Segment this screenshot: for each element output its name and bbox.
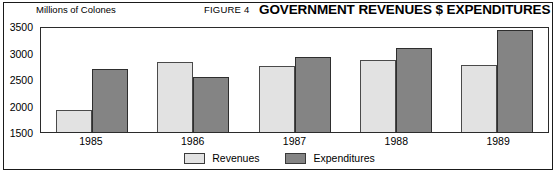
bar-group-1986	[142, 28, 243, 132]
bar-revenues-1989	[461, 65, 497, 132]
bar-groups	[41, 28, 548, 132]
bar-group-1985	[41, 28, 142, 132]
chart-title: GOVERNMENT REVENUES $ EXPENDITURES	[259, 2, 550, 17]
bar-revenues-1988	[360, 60, 396, 132]
y-axis-unit-label: Millions of Colones	[36, 4, 116, 15]
y-tick-label: 2500	[10, 75, 33, 86]
legend-label-expenditures: Expenditures	[313, 152, 374, 164]
plot-inner	[41, 28, 548, 132]
figure-container: Millions of Colones FIGURE 4 GOVERNMENT …	[0, 0, 559, 174]
y-tick-label: 2000	[10, 101, 33, 112]
chart-legend: RevenuesExpenditures	[0, 152, 559, 164]
legend-swatch-revenues	[184, 153, 205, 164]
y-tick-label: 1500	[10, 128, 33, 139]
x-tick-label-1987: 1987	[244, 135, 346, 149]
legend-label-revenues: Revenues	[212, 152, 259, 164]
bar-group-1989	[447, 28, 548, 132]
bar-group-1988	[345, 28, 446, 132]
bar-expenditures-1988	[396, 48, 432, 132]
y-tick-label: 3500	[10, 22, 33, 33]
bar-expenditures-1985	[92, 69, 128, 132]
legend-item-revenues: Revenues	[184, 152, 259, 164]
y-axis: 35003000250020001500	[0, 20, 36, 140]
y-tick-label: 3000	[10, 48, 33, 59]
bar-revenues-1987	[259, 66, 295, 132]
bar-revenues-1985	[56, 110, 92, 132]
x-tick-label-1985: 1985	[40, 135, 142, 149]
bar-revenues-1986	[157, 62, 193, 132]
plot-area	[40, 27, 549, 133]
bar-group-1987	[244, 28, 345, 132]
x-tick-label-1988: 1988	[345, 135, 447, 149]
x-tick-label-1989: 1989	[447, 135, 549, 149]
x-tick-label-1986: 1986	[142, 135, 244, 149]
x-axis: 19851986198719881989	[40, 135, 549, 149]
legend-swatch-expenditures	[285, 153, 306, 164]
bar-expenditures-1987	[295, 57, 331, 132]
bar-expenditures-1986	[193, 77, 229, 132]
bar-expenditures-1989	[497, 30, 533, 132]
figure-number-label: FIGURE 4	[204, 4, 249, 15]
legend-item-expenditures: Expenditures	[285, 152, 374, 164]
